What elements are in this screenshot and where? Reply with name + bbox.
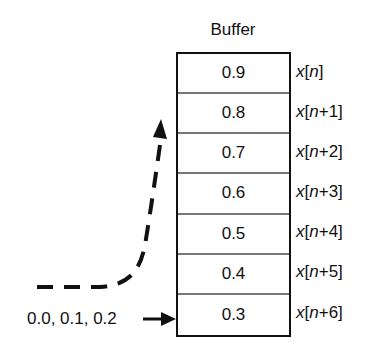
dashed-shift-arrow-icon <box>37 119 167 287</box>
arrows-layer <box>0 0 372 352</box>
input-arrow-icon <box>143 312 176 326</box>
